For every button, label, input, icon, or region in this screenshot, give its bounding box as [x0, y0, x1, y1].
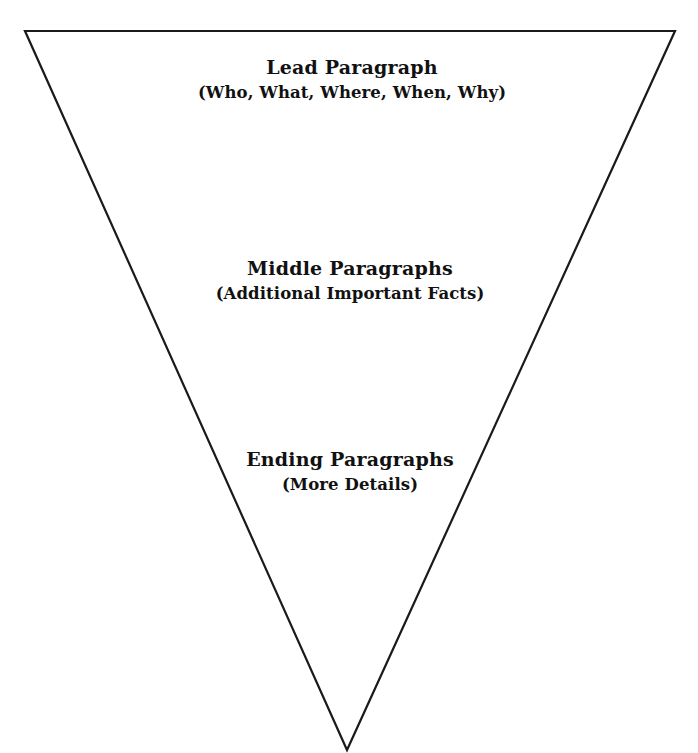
triangle-outline	[0, 0, 698, 753]
ending-paragraphs-title: Ending Paragraphs	[246, 447, 454, 471]
lead-paragraph-title: Lead Paragraph	[198, 55, 506, 79]
lead-paragraph-subtitle: (Who, What, Where, When, Why)	[198, 82, 506, 103]
ending-paragraphs-subtitle: (More Details)	[246, 474, 454, 495]
middle-paragraphs-title: Middle Paragraphs	[216, 256, 485, 280]
middle-paragraphs-subtitle: (Additional Important Facts)	[216, 283, 485, 304]
ending-paragraphs-block: Ending Paragraphs (More Details)	[246, 447, 454, 495]
inverted-triangle-shape	[25, 31, 675, 750]
lead-paragraph-block: Lead Paragraph (Who, What, Where, When, …	[198, 55, 506, 103]
inverted-pyramid-diagram: Lead Paragraph (Who, What, Where, When, …	[0, 0, 698, 753]
middle-paragraphs-block: Middle Paragraphs (Additional Important …	[216, 256, 485, 304]
